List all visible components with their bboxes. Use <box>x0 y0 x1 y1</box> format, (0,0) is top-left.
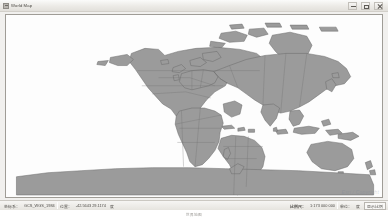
map-canvas-region: Esri / Copyright <box>0 12 388 200</box>
window-controls <box>348 2 386 10</box>
footer-caption: 世界地图 <box>186 212 203 217</box>
close-button[interactable] <box>374 2 383 10</box>
world-map-graphic <box>6 15 382 197</box>
status-bar: 坐标系： GCS_WGS_1984 位置： -42.5643 29.1174 度… <box>0 200 388 210</box>
title-bar-left: World Map <box>3 3 32 9</box>
map-document-icon <box>3 3 9 9</box>
status-units-value[interactable]: 度 <box>354 202 362 210</box>
status-scale-value[interactable]: 1:173 000 000 <box>308 202 337 210</box>
application-window: World Map <box>0 0 388 219</box>
status-coords-label: 位置： <box>58 202 74 210</box>
window-title: World Map <box>11 3 32 9</box>
title-bar[interactable]: World Map <box>0 0 388 12</box>
footer-strip: 世界地图 <box>0 210 388 219</box>
map-viewport[interactable]: Esri / Copyright <box>6 15 382 197</box>
status-scale-label: 比例尺： <box>288 202 308 210</box>
minimize-button[interactable] <box>348 2 357 10</box>
status-coords-value: -42.5643 29.1174 <box>74 202 108 210</box>
status-coordinate-system-value: GCS_WGS_1984 <box>22 202 57 210</box>
map-frame[interactable]: Esri / Copyright <box>5 14 383 198</box>
maximize-button[interactable] <box>361 2 370 10</box>
status-coordinate-system-label: 坐标系： <box>2 202 22 210</box>
status-display-scale-box[interactable]: 显示比例 <box>364 202 386 210</box>
status-coords-unit: 度 <box>108 202 116 210</box>
status-units-label: 单位： <box>338 202 354 210</box>
